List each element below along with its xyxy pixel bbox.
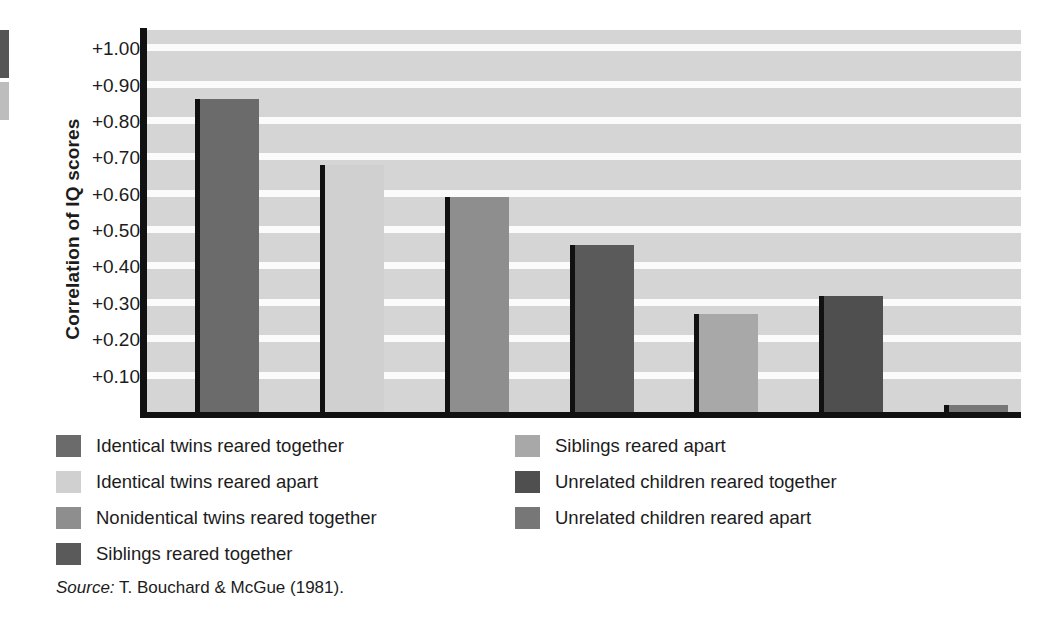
y-tick-label: +0.30 xyxy=(92,294,140,313)
y-tick-label: +0.70 xyxy=(92,148,140,167)
bar xyxy=(570,245,634,412)
legend-label: Siblings reared together xyxy=(96,543,292,565)
chart-plot-frame xyxy=(140,28,1021,418)
legend-label: Unrelated children reared together xyxy=(555,471,837,493)
bar xyxy=(819,296,883,412)
legend-item: Siblings reared together xyxy=(56,536,377,572)
x-axis-line xyxy=(140,412,1021,418)
bar xyxy=(944,405,1008,412)
chart-bars-layer xyxy=(147,30,1021,412)
legend-label: Identical twins reared apart xyxy=(96,471,318,493)
source-note: Source: T. Bouchard & McGue (1981). xyxy=(56,578,344,598)
legend-swatch xyxy=(56,471,81,493)
legend-item: Identical twins reared apart xyxy=(56,464,377,500)
legend-label: Unrelated children reared apart xyxy=(555,507,811,529)
legend-label: Siblings reared apart xyxy=(555,435,726,457)
y-tick-label: +0.60 xyxy=(92,185,140,204)
legend-item: Nonidentical twins reared together xyxy=(56,500,377,536)
y-tick-label: +0.20 xyxy=(92,330,140,349)
legend-swatch xyxy=(56,507,81,529)
y-axis-line xyxy=(140,28,147,418)
legend-column-left: Identical twins reared togetherIdentical… xyxy=(56,428,377,572)
bar xyxy=(195,99,259,412)
bar xyxy=(320,165,384,412)
legend-column-right: Siblings reared apartUnrelated children … xyxy=(515,428,837,536)
legend-swatch xyxy=(515,507,540,529)
legend-label: Nonidentical twins reared together xyxy=(96,507,377,529)
scan-artifact-top xyxy=(0,30,9,78)
source-text: T. Bouchard & McGue (1981). xyxy=(115,578,344,597)
source-prefix: Source: xyxy=(56,578,115,597)
bar xyxy=(445,197,509,412)
y-tick-label: +1.00 xyxy=(92,39,140,58)
y-tick-label: +0.50 xyxy=(92,221,140,240)
legend-swatch xyxy=(515,471,540,493)
scan-artifact-second xyxy=(0,82,9,120)
legend-item: Unrelated children reared apart xyxy=(515,500,837,536)
bar xyxy=(694,314,758,412)
legend-swatch xyxy=(56,435,81,457)
y-tick-label: +0.90 xyxy=(92,76,140,95)
legend-swatch xyxy=(56,543,81,565)
y-axis-tick-labels: +1.00+0.90+0.80+0.70+0.60+0.50+0.40+0.30… xyxy=(78,30,140,414)
y-tick-label: +0.10 xyxy=(92,367,140,386)
legend-label: Identical twins reared together xyxy=(96,435,344,457)
legend-swatch xyxy=(515,435,540,457)
legend-item: Siblings reared apart xyxy=(515,428,837,464)
legend-item: Identical twins reared together xyxy=(56,428,377,464)
legend-item: Unrelated children reared together xyxy=(515,464,837,500)
y-tick-label: +0.80 xyxy=(92,112,140,131)
y-tick-label: +0.40 xyxy=(92,257,140,276)
